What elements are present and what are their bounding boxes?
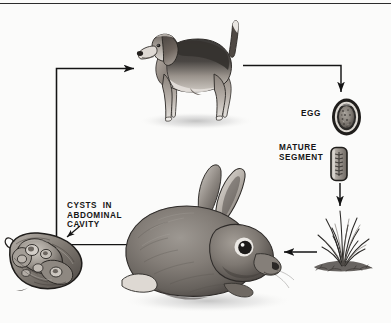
dog-nose: [137, 51, 143, 56]
mature-segment-label: MATURE SEGMENT: [279, 143, 323, 162]
top-divider-rule: [0, 3, 391, 4]
rabbit-illustration: [104, 158, 304, 318]
dog-ground-shadow: [140, 113, 252, 130]
egg-embryo: [339, 106, 354, 128]
grass-tuft-illustration: [312, 195, 374, 277]
tapeworm-egg-illustration: [330, 96, 363, 138]
rabbit-eye: [238, 241, 252, 255]
cysts-label: CYSTS IN ABDOMINAL CAVITY: [67, 201, 122, 230]
dog-eye: [157, 44, 161, 47]
egg-label: EGG: [301, 109, 321, 119]
cysts-in-abdominal-cavity-illustration: [4, 228, 88, 294]
rabbit-hind-foot: [122, 274, 157, 292]
life-cycle-diagram: EGG MATURE SEGMENT CYSTS IN ABDOMINAL CA…: [0, 0, 391, 323]
beagle-dog-illustration: [128, 8, 264, 133]
mature-segment-illustration: [329, 146, 349, 182]
